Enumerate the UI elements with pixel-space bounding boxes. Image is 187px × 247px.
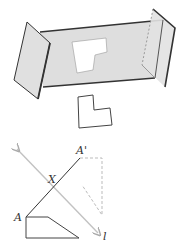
reflection-construction: A' X A l xyxy=(13,144,107,243)
label-l: l xyxy=(103,230,107,243)
original-trapezoid xyxy=(26,217,79,238)
label-a: A xyxy=(13,211,22,224)
label-x: X xyxy=(47,173,57,186)
label-a-prime: A' xyxy=(75,144,87,157)
reflection-diagram: A' X A l xyxy=(0,0,187,247)
reflected-trapezoid-dashed xyxy=(80,158,102,215)
original-l-shape xyxy=(78,95,112,128)
mirror-illustration xyxy=(14,9,175,128)
